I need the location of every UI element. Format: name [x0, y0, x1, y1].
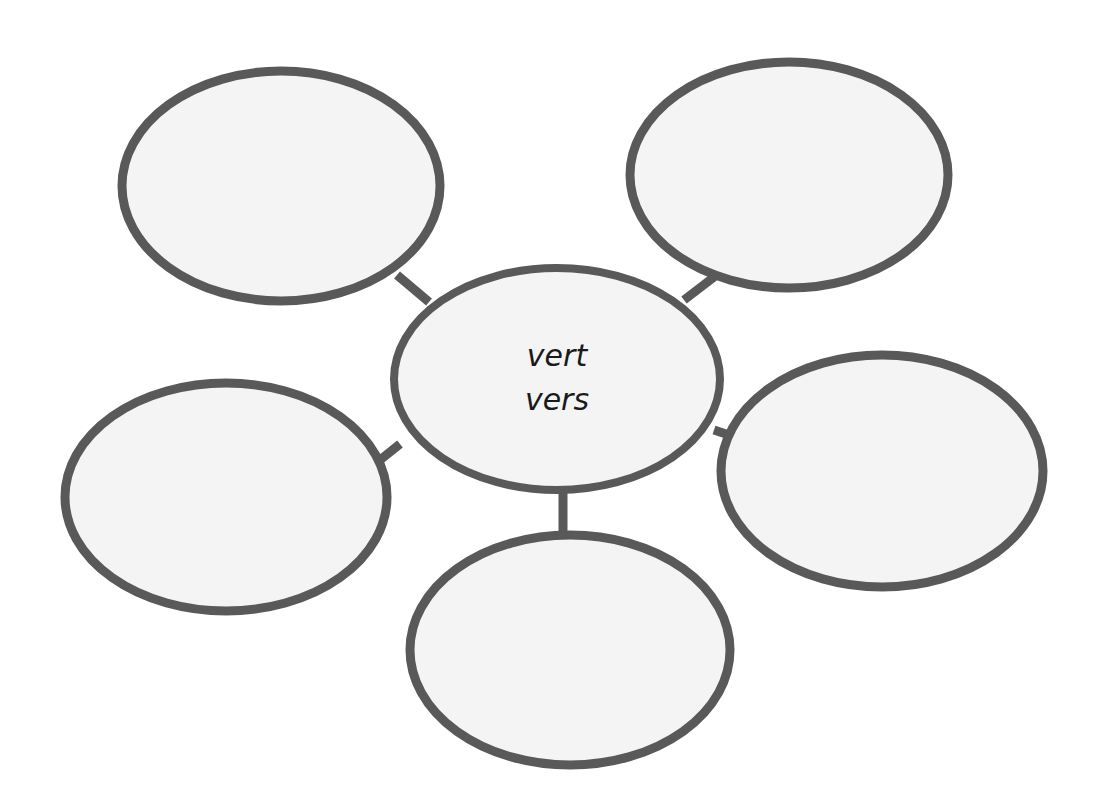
diagram-canvas: vert vers	[0, 0, 1100, 810]
connector-center-top-left	[397, 275, 429, 302]
node-right[interactable]	[721, 355, 1043, 587]
node-ellipse[interactable]	[630, 62, 948, 288]
node-top-right[interactable]	[630, 62, 948, 288]
center-node[interactable]: vert vers	[394, 268, 720, 490]
node-top-left[interactable]	[122, 71, 440, 301]
node-ellipse[interactable]	[721, 355, 1043, 587]
word-web-diagram: vert vers	[0, 0, 1100, 810]
node-ellipse[interactable]	[410, 535, 730, 765]
center-label-line2: vers	[525, 382, 589, 417]
center-ellipse[interactable]	[394, 268, 720, 490]
node-bottom[interactable]	[410, 535, 730, 765]
center-label-line1: vert	[527, 338, 589, 373]
node-left[interactable]	[65, 383, 387, 611]
node-ellipse[interactable]	[122, 71, 440, 301]
node-ellipse[interactable]	[65, 383, 387, 611]
